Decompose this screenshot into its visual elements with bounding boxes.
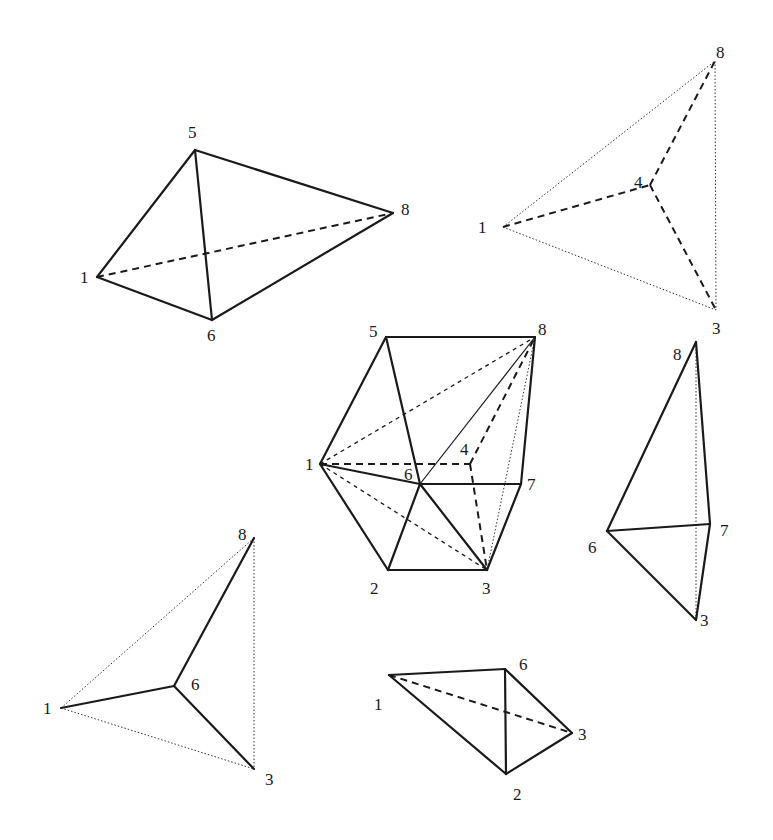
vertex-label-6: 6 <box>519 655 528 674</box>
vertex-label-1: 1 <box>43 699 52 718</box>
edge-5-6 <box>195 150 212 320</box>
figure-tetra-1-5-6-8: 1568 <box>80 123 410 345</box>
vertex-label-1: 1 <box>305 455 314 474</box>
edge-1-5 <box>97 150 195 277</box>
edge-1-8 <box>503 61 715 227</box>
vertex-label-4: 4 <box>460 440 469 459</box>
edge-1-6 <box>389 669 505 675</box>
edge-2-1 <box>320 464 388 570</box>
edge-4-8 <box>650 61 715 185</box>
figure-tetra-3-6-7-8: 3678 <box>588 342 729 630</box>
vertex-label-3: 3 <box>265 770 274 789</box>
vertex-label-8: 8 <box>401 200 410 219</box>
vertex-label-4: 4 <box>634 173 643 192</box>
figure-tetra-1-3-4-8: 1348 <box>478 43 725 338</box>
vertex-label-8: 8 <box>673 345 682 364</box>
edge-5-8 <box>195 150 393 213</box>
edge-1-3 <box>389 675 572 733</box>
edge-8-3 <box>715 61 716 310</box>
edge-7-3 <box>696 524 710 620</box>
vertex-label-1: 1 <box>478 218 487 237</box>
edge-8-7 <box>696 342 710 524</box>
vertex-label-8: 8 <box>716 43 725 62</box>
vertex-label-3: 3 <box>578 725 587 744</box>
edge-2-3 <box>506 733 572 774</box>
figure-tetra-1-3-6-8: 1368 <box>43 525 274 789</box>
vertex-label-1: 1 <box>374 695 383 714</box>
vertex-label-6: 6 <box>404 465 413 484</box>
edge-8-6 <box>607 342 696 531</box>
vertex-label-3: 3 <box>700 611 709 630</box>
edge-8-7 <box>521 337 535 484</box>
vertex-label-6: 6 <box>191 675 200 694</box>
vertex-label-2: 2 <box>513 785 522 804</box>
edge-1-3 <box>503 227 716 310</box>
edge-1-8 <box>97 213 393 277</box>
edge-6-8 <box>174 538 254 686</box>
edge-1-2 <box>389 675 506 774</box>
edge-8-6 <box>212 213 393 320</box>
edge-6-2 <box>388 484 420 570</box>
vertex-label-7: 7 <box>720 521 729 540</box>
edge-8-3 <box>487 337 535 570</box>
edge-1-8 <box>61 538 254 708</box>
vertex-label-8: 8 <box>538 320 547 339</box>
edge-6-3 <box>420 484 487 570</box>
edge-7-3 <box>487 484 521 570</box>
vertex-label-5: 5 <box>369 322 378 341</box>
vertex-label-6: 6 <box>207 326 216 345</box>
edge-5-6 <box>386 337 420 484</box>
figure-tetra-1-2-3-6: 1236 <box>374 655 587 804</box>
vertex-label-3: 3 <box>482 579 491 598</box>
vertex-label-8: 8 <box>238 525 247 544</box>
edge-6-1 <box>97 277 212 320</box>
vertex-label-1: 1 <box>80 268 89 287</box>
vertex-label-7: 7 <box>527 475 536 494</box>
edge-1-6 <box>61 686 174 708</box>
edge-1-4 <box>503 185 650 227</box>
edge-6-3 <box>174 686 254 769</box>
edge-6-2 <box>505 669 506 774</box>
figure-cube: 12345678 <box>305 320 547 598</box>
vertex-label-2: 2 <box>370 579 379 598</box>
edge-4-3 <box>650 185 716 310</box>
edge-6-3 <box>607 531 696 620</box>
vertex-label-5: 5 <box>188 123 197 142</box>
cube-tetrahedra-diagram: 1568134812345678367813681236 <box>0 0 773 840</box>
edge-4-3 <box>470 464 487 570</box>
edge-6-8 <box>420 337 535 484</box>
vertex-label-3: 3 <box>712 319 721 338</box>
vertex-label-6: 6 <box>588 538 597 557</box>
edge-6-7 <box>607 524 710 531</box>
edge-1-5 <box>320 337 386 464</box>
